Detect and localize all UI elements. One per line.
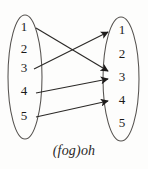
domain-element-2: 2 — [21, 41, 28, 56]
codomain-element-1: 1 — [119, 22, 126, 37]
codomain-element-3: 3 — [119, 69, 126, 84]
arrow-4-to-3 — [36, 79, 108, 93]
domain-element-1: 1 — [21, 19, 28, 34]
domain-element-3: 3 — [21, 60, 28, 75]
mapping-diagram: 1 2 3 4 5 1 2 3 4 5 (fog)oh — [0, 0, 148, 169]
codomain-element-2: 2 — [119, 46, 126, 61]
domain-element-5: 5 — [21, 108, 28, 123]
diagram-caption: (fog)oh — [0, 143, 148, 159]
arrow-3-to-1 — [34, 32, 108, 69]
arrow-5-to-4 — [36, 101, 108, 117]
domain-element-4: 4 — [21, 83, 28, 98]
codomain-element-4: 4 — [119, 92, 126, 107]
codomain-element-5: 5 — [119, 115, 126, 130]
